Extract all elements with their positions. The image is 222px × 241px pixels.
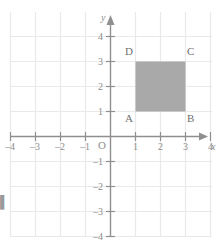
vertex-label-d: D bbox=[125, 46, 133, 57]
x-axis-arrowhead bbox=[199, 133, 208, 141]
y-tick-label-1: 1 bbox=[98, 107, 103, 117]
vertex-label-a: A bbox=[125, 113, 133, 124]
x-tick-label-2: 2 bbox=[158, 142, 163, 152]
x-axis-label: x bbox=[211, 142, 215, 152]
x-tick-label-3: 3 bbox=[183, 142, 188, 152]
shaded-square-ABCD bbox=[136, 62, 186, 112]
y-tick-label-neg1: –1 bbox=[93, 157, 103, 167]
y-tick-label-4: 4 bbox=[98, 32, 103, 42]
y-tick-label-neg4: –4 bbox=[93, 232, 103, 241]
x-tick-label-1: 1 bbox=[133, 142, 138, 152]
y-axis-label: y bbox=[101, 13, 105, 23]
vertex-label-b: B bbox=[187, 113, 194, 124]
coordinate-plane-figure: –4 –3 –2 –1 1 2 3 4 4 3 2 1 –1 –2 –3 –4 … bbox=[0, 0, 222, 241]
x-tick-label-neg3: –3 bbox=[30, 142, 40, 152]
y-tick-label-neg3: –3 bbox=[93, 207, 103, 217]
x-tick-label-neg2: –2 bbox=[55, 142, 65, 152]
y-tick-label-3: 3 bbox=[98, 57, 103, 67]
x-tick-label-neg1: –1 bbox=[80, 142, 90, 152]
y-tick-label-2: 2 bbox=[98, 82, 103, 92]
origin-label: O bbox=[98, 140, 106, 151]
y-axis-arrowhead bbox=[107, 15, 115, 25]
margin-artifact-glyph: ▌ bbox=[0, 196, 9, 208]
vertex-label-c: C bbox=[187, 46, 194, 57]
x-tick-label-neg4: –4 bbox=[5, 142, 15, 152]
y-tick-label-neg2: –2 bbox=[93, 182, 103, 192]
